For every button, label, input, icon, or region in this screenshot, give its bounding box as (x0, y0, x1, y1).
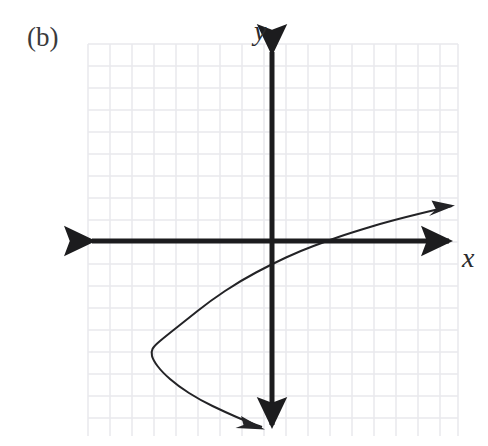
x-axis-label: x (461, 242, 475, 273)
curve-arrowhead-upper-right (429, 201, 455, 217)
y-axis-label: y (251, 15, 267, 46)
figure-panel: (b) y x (0, 0, 488, 446)
coordinate-plane: y x (0, 0, 488, 446)
